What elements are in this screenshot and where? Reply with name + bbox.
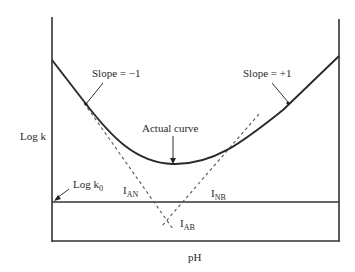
i-nb-sub: NB	[215, 193, 226, 202]
slope-left-marker	[84, 102, 87, 105]
i-an-label: IAN	[123, 185, 138, 196]
actual-curve-label: Actual curve	[142, 123, 199, 134]
i-ab-label: IAB	[180, 218, 195, 229]
slope-right-marker	[286, 101, 289, 104]
log-k0-label: Log k0	[73, 179, 103, 190]
i-ab-sub: AB	[184, 223, 195, 232]
log-k0-sub: 0	[99, 184, 103, 193]
slope-right-leader	[272, 83, 288, 102]
i-nb-label: INB	[211, 188, 226, 199]
slope-left-label: Slope = −1	[92, 68, 140, 79]
slope-right-label: Slope = +1	[243, 68, 291, 79]
y-axis-label: Log k	[20, 131, 46, 142]
i-an-sub: AN	[127, 190, 139, 199]
slope-left-leader	[86, 83, 103, 104]
log-k0-main: Log k	[73, 178, 99, 190]
diagram-canvas	[0, 0, 355, 272]
x-axis-label: pH	[188, 252, 201, 263]
